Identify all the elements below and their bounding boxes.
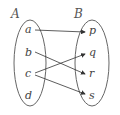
element-r: r [89,67,95,80]
element-c: c [25,67,31,80]
set-b-label: B [73,7,83,21]
element-p: p [89,24,96,37]
mapping-diagram: A B a b c d p q r s [0,0,120,115]
element-a: a [25,23,32,36]
element-d: d [25,89,32,102]
element-s: s [89,89,95,102]
arrow-b-to-r [35,52,85,74]
arrow-a-to-p [35,30,85,32]
arrow-c-to-q [35,54,85,73]
element-q: q [89,46,96,59]
set-a-label: A [10,7,20,21]
element-b: b [25,46,32,59]
